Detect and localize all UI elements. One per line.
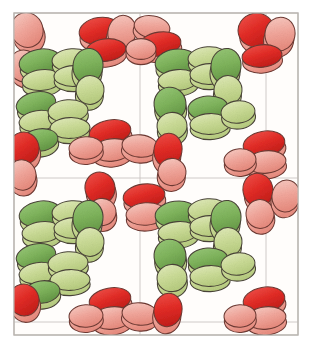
packing-diagram-canvas — [0, 0, 315, 353]
red-disc-molecule — [223, 148, 257, 178]
disc-cap — [126, 39, 156, 60]
red-disc-molecule — [126, 39, 156, 65]
red-disc-molecule — [223, 304, 257, 334]
crystal-packing-figure — [0, 0, 315, 353]
